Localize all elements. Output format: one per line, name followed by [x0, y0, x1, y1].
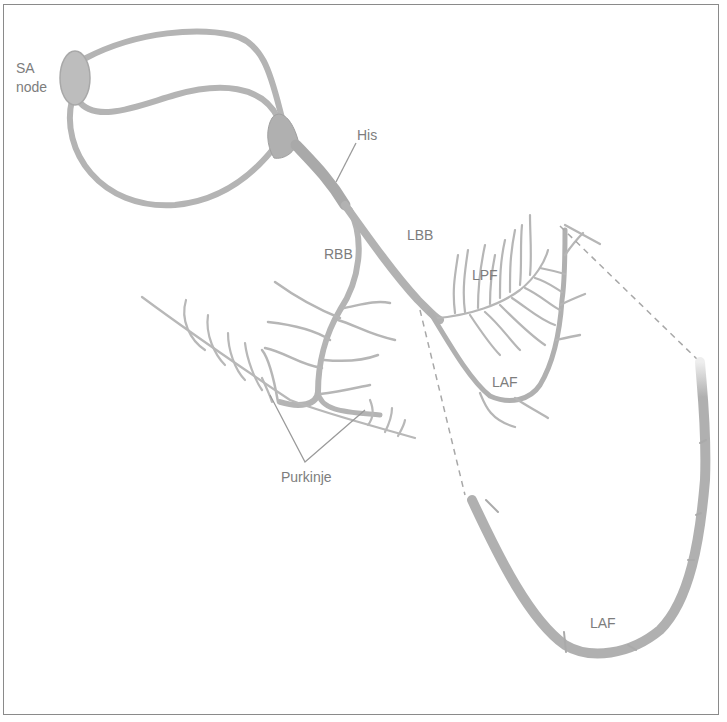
conduction-system-diagram: [0, 0, 727, 722]
label-purkinje: Purkinje: [281, 469, 332, 485]
sa-node: [60, 51, 90, 105]
label-his: His: [357, 127, 377, 143]
label-laf-upper: LAF: [492, 374, 518, 390]
internodal-pathways: [70, 32, 282, 206]
label-rbb: RBB: [324, 246, 353, 262]
label-sa-node-line1: SA: [16, 60, 35, 76]
left-posterior-fascicle: [438, 215, 565, 355]
bundle-of-his: [296, 145, 345, 205]
label-lpf: LPF: [472, 267, 498, 283]
label-laf-lower: LAF: [590, 615, 616, 631]
label-lbb: LBB: [407, 227, 433, 243]
label-sa-node-line2: node: [16, 79, 47, 95]
av-node: [268, 114, 298, 158]
left-anterior-fascicle-enlarged: [472, 362, 705, 653]
